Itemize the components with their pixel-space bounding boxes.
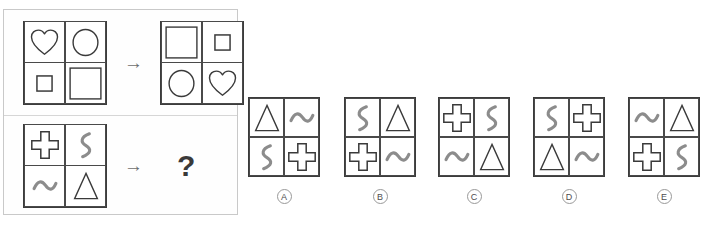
matrix-cell-bottom-left bbox=[24, 165, 66, 207]
shape-glyph bbox=[440, 144, 474, 170]
answer-option-e[interactable]: E bbox=[628, 97, 700, 204]
example-1-source-matrix bbox=[23, 21, 107, 105]
matrix-cell-top-left bbox=[345, 98, 381, 138]
matrix-cell-top-left bbox=[249, 98, 285, 138]
matrix-cell-bottom-left bbox=[249, 137, 285, 177]
matrix-cell-bottom-right bbox=[380, 137, 416, 177]
question-source-matrix bbox=[23, 124, 107, 208]
matrix-cell-top-left bbox=[439, 98, 475, 138]
shape-glyph bbox=[383, 103, 413, 133]
shape-glyph bbox=[477, 142, 507, 172]
matrix-cell-bottom-left bbox=[534, 137, 570, 177]
option-label-a: A bbox=[277, 189, 292, 204]
shape-glyph bbox=[668, 141, 696, 173]
matrix-2x2 bbox=[160, 21, 244, 105]
shape-glyph bbox=[630, 105, 664, 131]
option-matrix[interactable] bbox=[248, 97, 320, 177]
shape-glyph bbox=[667, 103, 697, 133]
answer-option-d[interactable]: D bbox=[533, 97, 605, 204]
matrix-cell-top-right bbox=[202, 21, 244, 63]
matrix-cell-bottom-left bbox=[161, 62, 203, 104]
shape-glyph bbox=[253, 141, 281, 173]
matrix-cell-top-right bbox=[664, 98, 700, 138]
matrix-cell-bottom-right bbox=[664, 137, 700, 177]
shape-glyph bbox=[538, 102, 566, 134]
stimulus-panel: → → ? bbox=[3, 9, 238, 215]
matrix-cell-bottom-left bbox=[24, 62, 66, 104]
transform-arrow-icon: → bbox=[124, 53, 143, 72]
matrix-cell-bottom-right bbox=[65, 165, 107, 207]
shape-glyph bbox=[537, 142, 567, 172]
shape-glyph bbox=[71, 171, 101, 201]
answer-options-strip: A B C D bbox=[246, 0, 718, 236]
answer-option-b[interactable]: B bbox=[344, 97, 416, 204]
matrix-cell-top-right bbox=[474, 98, 510, 138]
shape-glyph bbox=[166, 68, 197, 99]
matrix-cell-top-right bbox=[65, 124, 107, 166]
matrix-cell-top-left bbox=[24, 124, 66, 166]
shape-glyph bbox=[478, 102, 506, 134]
option-label-e: E bbox=[657, 189, 672, 204]
matrix-cell-top-right bbox=[569, 98, 605, 138]
answer-option-c[interactable]: C bbox=[438, 97, 510, 204]
matrix-cell-bottom-right bbox=[202, 62, 244, 104]
matrix-cell-top-right bbox=[284, 98, 320, 138]
option-matrix[interactable] bbox=[344, 97, 416, 177]
matrix-cell-top-left bbox=[24, 21, 66, 63]
answer-option-a[interactable]: A bbox=[248, 97, 320, 204]
shape-glyph bbox=[349, 102, 377, 134]
example-1-result-matrix bbox=[160, 21, 244, 105]
shape-glyph bbox=[68, 66, 103, 101]
matrix-cell-bottom-right bbox=[284, 137, 320, 177]
shape-glyph bbox=[164, 25, 199, 60]
matrix-cell-top-left bbox=[161, 21, 203, 63]
matrix-cell-top-left bbox=[629, 98, 665, 138]
shape-glyph bbox=[572, 103, 602, 133]
shape-glyph bbox=[381, 144, 415, 170]
option-matrix[interactable] bbox=[533, 97, 605, 177]
shape-glyph bbox=[209, 29, 236, 56]
transform-arrow-icon: → bbox=[124, 156, 143, 175]
matrix-2x2 bbox=[23, 21, 107, 105]
shape-glyph bbox=[287, 142, 317, 172]
matrix-cell-bottom-left bbox=[629, 137, 665, 177]
shape-glyph bbox=[31, 70, 58, 97]
shape-glyph bbox=[632, 142, 662, 172]
shape-glyph bbox=[72, 129, 100, 161]
example-row-1: → bbox=[4, 10, 237, 116]
option-label-c: C bbox=[467, 189, 482, 204]
shape-glyph bbox=[30, 130, 60, 160]
option-matrix[interactable] bbox=[438, 97, 510, 177]
shape-glyph bbox=[207, 68, 238, 99]
shape-glyph bbox=[29, 27, 60, 58]
shape-glyph bbox=[70, 27, 101, 58]
example-row-2-question: → ? bbox=[4, 116, 237, 215]
shape-glyph bbox=[28, 173, 62, 199]
shape-glyph bbox=[348, 142, 378, 172]
matrix-cell-bottom-right bbox=[569, 137, 605, 177]
option-matrix[interactable] bbox=[628, 97, 700, 177]
matrix-2x2 bbox=[23, 124, 107, 208]
matrix-cell-bottom-right bbox=[474, 137, 510, 177]
option-label-d: D bbox=[562, 189, 577, 204]
shape-glyph bbox=[285, 105, 319, 131]
shape-glyph bbox=[442, 103, 472, 133]
shape-glyph bbox=[570, 144, 604, 170]
matrix-cell-bottom-right bbox=[65, 62, 107, 104]
matrix-cell-top-right bbox=[380, 98, 416, 138]
option-label-b: B bbox=[373, 189, 388, 204]
matrix-cell-bottom-left bbox=[439, 137, 475, 177]
matrix-cell-top-right bbox=[65, 21, 107, 63]
question-mark-placeholder: ? bbox=[177, 151, 195, 181]
matrix-cell-top-left bbox=[534, 98, 570, 138]
shape-glyph bbox=[252, 103, 282, 133]
matrix-cell-bottom-left bbox=[345, 137, 381, 177]
